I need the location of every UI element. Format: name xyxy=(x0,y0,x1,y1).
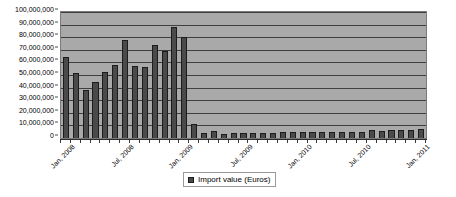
bar xyxy=(231,133,237,138)
y-tick-label: 0 xyxy=(50,132,54,139)
bar xyxy=(73,73,79,138)
bar xyxy=(83,90,89,138)
y-tick-label: 70,000,000 xyxy=(19,43,54,50)
y-tick-mark xyxy=(55,21,58,22)
y-tick-mark xyxy=(55,84,58,85)
bar xyxy=(201,133,207,138)
bar xyxy=(152,45,158,138)
bar xyxy=(270,133,276,138)
bar xyxy=(388,130,394,138)
bar xyxy=(221,134,227,138)
y-tick-label: 80,000,000 xyxy=(19,31,54,38)
bar xyxy=(250,133,256,138)
y-axis: 010,000,00020,000,00030,000,00040,000,00… xyxy=(0,8,58,140)
bar xyxy=(398,130,404,138)
bar xyxy=(379,131,385,138)
y-tick-mark xyxy=(55,9,58,10)
x-tick-label: Jul, 2010 xyxy=(347,143,373,169)
bar xyxy=(181,37,187,138)
bar xyxy=(122,40,128,138)
bar-chart: 010,000,00020,000,00030,000,00040,000,00… xyxy=(0,0,456,197)
x-tick-label: Jul, 2009 xyxy=(228,143,254,169)
y-tick-mark xyxy=(55,135,58,136)
bar xyxy=(260,133,266,138)
chart-legend: Import value (Euros) xyxy=(183,172,276,187)
y-tick-mark xyxy=(55,122,58,123)
y-tick-label: 10,000,000 xyxy=(19,119,54,126)
bar xyxy=(102,72,108,138)
bar xyxy=(112,65,118,138)
y-tick-mark xyxy=(55,46,58,47)
x-tick-label: Jan, 2010 xyxy=(286,143,313,170)
bar xyxy=(92,82,98,138)
plot-area xyxy=(60,11,427,139)
y-tick-label: 50,000,000 xyxy=(19,69,54,76)
y-tick-label: 40,000,000 xyxy=(19,81,54,88)
bar xyxy=(240,133,246,138)
legend-swatch-icon xyxy=(188,177,194,183)
x-tick-label: Jan, 2011 xyxy=(405,143,432,170)
y-tick-label: 30,000,000 xyxy=(19,94,54,101)
y-tick-label: 90,000,000 xyxy=(19,18,54,25)
bar xyxy=(142,67,148,138)
bar xyxy=(171,27,177,138)
bar xyxy=(359,132,365,138)
bar xyxy=(369,130,375,138)
x-tick-label: Jan, 2009 xyxy=(168,143,195,170)
bar xyxy=(290,132,296,138)
y-tick-mark xyxy=(55,59,58,60)
bar xyxy=(329,132,335,138)
y-tick-mark xyxy=(55,72,58,73)
bar xyxy=(319,132,325,138)
bar xyxy=(132,66,138,138)
y-tick-mark xyxy=(55,109,58,110)
legend-label: Import value (Euros) xyxy=(198,175,270,184)
x-tick-label: Jul, 2008 xyxy=(110,143,136,169)
y-tick-mark xyxy=(55,97,58,98)
bar xyxy=(309,132,315,138)
y-tick-label: 20,000,000 xyxy=(19,106,54,113)
bar xyxy=(349,132,355,138)
x-tick-label: Jan, 2008 xyxy=(49,143,76,170)
bar xyxy=(408,130,414,138)
y-tick-mark xyxy=(55,34,58,35)
bar xyxy=(211,131,217,138)
bar xyxy=(339,132,345,138)
bar xyxy=(300,132,306,138)
bar xyxy=(191,124,197,138)
bar xyxy=(418,129,424,138)
bar xyxy=(280,132,286,138)
y-tick-label: 100,000,000 xyxy=(15,6,54,13)
bar xyxy=(162,51,168,138)
bar xyxy=(63,57,69,138)
y-tick-label: 60,000,000 xyxy=(19,56,54,63)
bars-container xyxy=(61,12,426,138)
